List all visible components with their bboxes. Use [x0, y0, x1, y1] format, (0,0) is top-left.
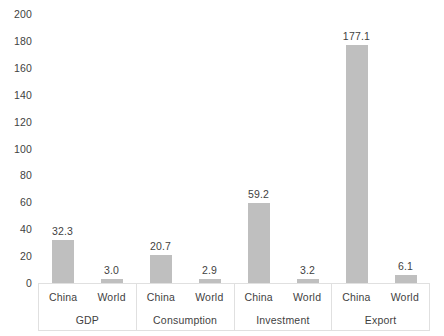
x-axis-category-label: Consumption	[137, 310, 234, 330]
bar-value-label: 3.0	[104, 264, 119, 276]
x-axis-subcategory-row: ChinaWorld	[332, 284, 429, 310]
y-axis-tick-label: 100	[14, 143, 32, 155]
x-axis-subcategory-label: World	[185, 291, 233, 303]
y-axis-tick-label: 120	[14, 116, 32, 128]
bar[interactable]	[52, 240, 74, 283]
y-axis: 020406080100120140160180200	[0, 0, 36, 336]
plot-area: 32.33.020.72.959.23.2177.16.1	[38, 14, 430, 283]
bar-slot: 177.1	[332, 14, 381, 283]
bar-value-label: 20.7	[150, 240, 171, 252]
y-axis-tick-label: 40	[20, 223, 32, 235]
bar-value-label: 59.2	[248, 188, 269, 200]
y-axis-tick-label: 180	[14, 35, 32, 47]
x-axis-group: ChinaWorldGDP	[39, 284, 136, 330]
x-axis-subcategory-row: ChinaWorld	[235, 284, 332, 310]
bar-slot: 3.2	[283, 14, 332, 283]
bar-value-label: 6.1	[398, 260, 413, 272]
x-axis: ChinaWorldGDPChinaWorldConsumptionChinaW…	[38, 283, 430, 331]
bar-slot: 2.9	[185, 14, 234, 283]
x-axis-category-label: GDP	[39, 310, 136, 330]
x-axis-subcategory-label: China	[235, 291, 283, 303]
bar[interactable]	[346, 45, 368, 283]
x-axis-subcategory-label: World	[381, 291, 429, 303]
bar[interactable]	[395, 275, 417, 283]
y-axis-tick-label: 60	[20, 196, 32, 208]
y-axis-tick-label: 160	[14, 62, 32, 74]
x-axis-subcategory-row: ChinaWorld	[137, 284, 234, 310]
x-axis-subcategory-label: World	[283, 291, 331, 303]
x-axis-subcategory-row: ChinaWorld	[39, 284, 136, 310]
x-axis-group: ChinaWorldInvestment	[234, 284, 332, 330]
bar-slot: 59.2	[234, 14, 283, 283]
x-axis-category-label: Investment	[235, 310, 332, 330]
x-axis-subcategory-label: China	[137, 291, 185, 303]
bar-slot: 3.0	[87, 14, 136, 283]
bar-slot: 6.1	[381, 14, 430, 283]
x-axis-subcategory-label: China	[332, 291, 380, 303]
x-axis-group: ChinaWorldExport	[331, 284, 429, 330]
bar[interactable]	[150, 255, 172, 283]
bar-value-label: 2.9	[202, 264, 217, 276]
bar-slot: 32.3	[38, 14, 87, 283]
x-axis-group: ChinaWorldConsumption	[136, 284, 234, 330]
bar-value-label: 3.2	[300, 264, 315, 276]
y-axis-tick-label: 200	[14, 8, 32, 20]
bar-groups: 32.33.020.72.959.23.2177.16.1	[38, 14, 430, 283]
bar-group: 177.16.1	[332, 14, 430, 283]
bar-slot: 20.7	[136, 14, 185, 283]
bar-value-label: 32.3	[52, 225, 73, 237]
y-axis-tick-label: 80	[20, 169, 32, 181]
x-axis-category-label: Export	[332, 310, 429, 330]
bar-group: 59.23.2	[234, 14, 332, 283]
bar-group: 20.72.9	[136, 14, 234, 283]
bar[interactable]	[248, 203, 270, 283]
y-axis-tick-label: 20	[20, 250, 32, 262]
x-axis-subcategory-label: China	[39, 291, 87, 303]
bar-value-label: 177.1	[343, 30, 370, 42]
bar-group: 32.33.0	[38, 14, 136, 283]
x-axis-subcategory-label: World	[87, 291, 135, 303]
y-axis-tick-label: 140	[14, 89, 32, 101]
y-axis-tick-label: 0	[26, 277, 32, 289]
bar-chart: 020406080100120140160180200 32.33.020.72…	[0, 0, 444, 336]
